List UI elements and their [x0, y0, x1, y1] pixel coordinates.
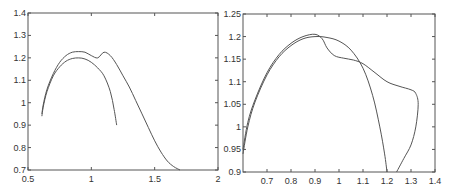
- series-curve-2: [42, 58, 117, 125]
- y-tick-label: 0.8: [13, 143, 26, 153]
- series-curve-1: [243, 34, 418, 172]
- x-tick-label: 1.1: [357, 176, 370, 186]
- y-tick-label: 1.1: [228, 77, 241, 87]
- series-curve-1: [42, 52, 180, 170]
- x-tick-label: 0.9: [309, 176, 322, 186]
- y-tick-label: 1.15: [223, 54, 241, 64]
- x-tick-label: 2: [215, 174, 220, 184]
- y-tick-label: 0.9: [13, 120, 26, 130]
- y-tick-label: 0.7: [13, 165, 26, 175]
- x-tick-label: 1.3: [405, 176, 418, 186]
- y-tick-label: 1.1: [13, 75, 26, 85]
- y-tick-label: 1: [21, 98, 26, 108]
- x-tick-label: 0.8: [285, 176, 298, 186]
- y-tick-label: 1.3: [13, 30, 26, 40]
- y-tick-label: 1.25: [223, 9, 241, 19]
- series-curve-2: [243, 37, 387, 172]
- y-tick-label: 1.4: [13, 8, 26, 18]
- y-tick-label: 1.05: [223, 99, 241, 109]
- x-tick-label: 1.5: [148, 174, 161, 184]
- x-tick-label: 0.7: [261, 176, 274, 186]
- y-tick-label: 1: [236, 122, 241, 132]
- x-tick-label: 1: [89, 174, 94, 184]
- y-tick-label: 1.2: [13, 53, 26, 63]
- x-tick-label: 1.4: [429, 176, 442, 186]
- y-tick-label: 0.95: [223, 144, 241, 154]
- x-tick-label: 1.2: [381, 176, 394, 186]
- charts-canvas: 0.511.520.70.80.911.11.21.31.4 0.70.80.9…: [0, 0, 452, 191]
- right-plot: 0.70.80.911.11.21.31.40.90.9511.051.11.1…: [223, 9, 441, 186]
- x-tick-label: 0.5: [22, 174, 35, 184]
- y-tick-label: 0.9: [228, 167, 241, 177]
- x-tick-label: 1: [336, 176, 341, 186]
- axes-box: [28, 13, 218, 170]
- y-tick-label: 1.2: [228, 32, 241, 42]
- axes-box: [243, 14, 435, 172]
- left-plot: 0.511.520.70.80.911.11.21.31.4: [13, 8, 220, 184]
